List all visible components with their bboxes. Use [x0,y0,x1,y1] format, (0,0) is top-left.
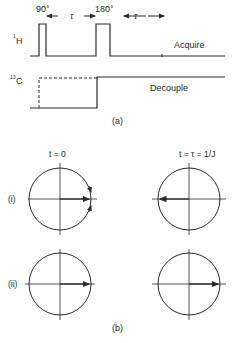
col-header-t0: t = 0 [49,149,66,159]
c-channel [30,77,225,108]
c-channel-label: C [16,76,23,86]
col-header-tau: t = τ = 1/J [179,149,215,159]
c-decouple-trace [30,77,225,108]
decouple-label: Decouple [150,83,188,93]
pulse-90-label: 90° [36,4,50,14]
row-label-ii: (ii) [8,279,18,289]
c-dashed-trace [39,78,97,108]
pulse-180-label: 180° [95,4,114,14]
tau1-label: τ [70,11,74,21]
pulse-sequence-diagram: 90° τ 180° τ 1 H Acquire 13 C Decouple (… [0,0,232,343]
vector-diagram-i-tau [152,163,226,235]
row-label-i: (i) [8,194,16,204]
caption-b: (b) [112,323,123,333]
vector-diagram-ii-tau [152,249,226,320]
vector-diagram-i-t0 [28,163,97,235]
h-channel [30,16,225,57]
caption-a: (a) [112,116,123,126]
vector-diagram-ii-t0 [25,249,95,320]
c-superscript: 13 [10,74,16,80]
h-channel-label: H [16,36,23,46]
acquire-label: Acquire [174,40,205,50]
